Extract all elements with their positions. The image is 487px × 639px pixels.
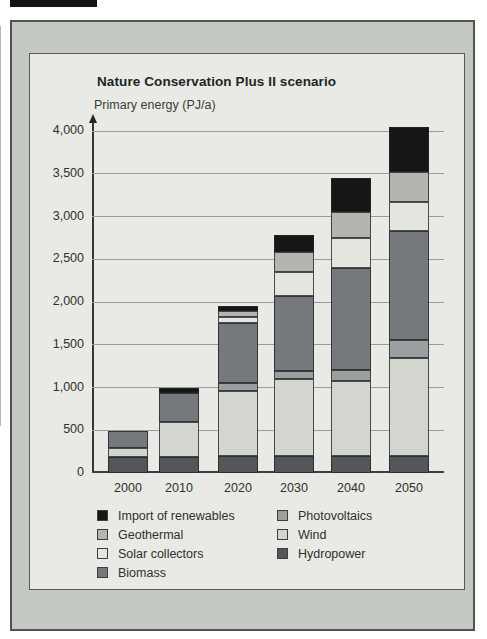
segment-2040-solar-collectors <box>331 238 371 268</box>
legend-item-biomass: Biomass <box>97 563 235 582</box>
legend-label: Geothermal <box>118 528 183 542</box>
y-axis-arrow-icon <box>89 114 97 123</box>
segment-2040-geothermal <box>331 212 371 238</box>
segment-2030-biomass <box>274 296 314 371</box>
legend-label: Solar collectors <box>118 547 203 561</box>
bar-2010 <box>159 388 199 473</box>
legend-item-hydropower: Hydropower <box>277 544 372 563</box>
segment-2020-photovoltaics <box>218 383 258 391</box>
legend-label: Wind <box>298 528 326 542</box>
segment-2050-import-of-renewables <box>389 127 429 172</box>
page-top-rule <box>10 0 97 7</box>
chart-title: Nature Conservation Plus II scenario <box>97 74 336 89</box>
legend-swatch-icon <box>97 567 108 578</box>
segment-2000-wind <box>108 448 148 457</box>
segment-2040-biomass <box>331 268 371 371</box>
segment-2020-solar-collectors <box>218 317 258 324</box>
segment-2050-geothermal <box>389 172 429 202</box>
x-tick-label-2000: 2000 <box>102 481 154 495</box>
segment-2030-geothermal <box>274 252 314 272</box>
segment-2010-biomass <box>159 393 199 422</box>
segment-2030-import-of-renewables <box>274 235 314 252</box>
y-tick-label: 3,500 <box>32 166 84 180</box>
legend-item-solar-collectors: Solar collectors <box>97 544 235 563</box>
legend-swatch-icon <box>277 510 288 521</box>
bar-2040 <box>331 178 371 473</box>
segment-2020-biomass <box>218 323 258 383</box>
segment-2030-solar-collectors <box>274 272 314 296</box>
segment-2050-photovoltaics <box>389 340 429 357</box>
bar-2020 <box>218 306 258 473</box>
segment-2030-wind <box>274 379 314 456</box>
segment-2020-hydropower <box>218 456 258 473</box>
x-tick-label-2050: 2050 <box>383 481 435 495</box>
y-tick-label: 4,000 <box>32 123 84 137</box>
segment-2030-photovoltaics <box>274 371 314 379</box>
segment-2050-biomass <box>389 231 429 340</box>
stacked-bar-chart: 05001,0001,5002,0002,5003,0003,5004,0002… <box>92 110 444 473</box>
figure-panel: Nature Conservation Plus II scenario Pri… <box>29 53 465 590</box>
segment-2010-hydropower <box>159 457 199 473</box>
legend-label: Hydropower <box>298 547 365 561</box>
y-tick-label: 1,000 <box>32 380 84 394</box>
segment-2040-wind <box>331 381 371 456</box>
y-tick-label: 2,500 <box>32 251 84 265</box>
legend-item-wind: Wind <box>277 525 372 544</box>
legend-item-import-of-renewables: Import of renewables <box>97 506 235 525</box>
y-axis-line <box>92 116 94 473</box>
legend-label: Biomass <box>118 566 166 580</box>
segment-2050-hydropower <box>389 456 429 473</box>
scan-page-edge <box>0 26 1 426</box>
segment-2010-wind <box>159 422 199 457</box>
y-tick-label: 1,500 <box>32 337 84 351</box>
x-tick-label-2040: 2040 <box>325 481 377 495</box>
legend-column-1: PhotovoltaicsWindHydropower <box>277 506 372 563</box>
bar-2000 <box>108 431 148 473</box>
segment-2040-hydropower <box>331 456 371 473</box>
y-tick-label: 3,000 <box>32 209 84 223</box>
segment-2050-solar-collectors <box>389 202 429 231</box>
figure-frame: Nature Conservation Plus II scenario Pri… <box>10 20 475 631</box>
bar-2030 <box>274 235 314 473</box>
segment-2020-import-of-renewables <box>218 306 258 310</box>
legend-item-geothermal: Geothermal <box>97 525 235 544</box>
segment-2040-photovoltaics <box>331 370 371 380</box>
x-tick-label-2030: 2030 <box>268 481 320 495</box>
legend-column-0: Import of renewablesGeothermalSolar coll… <box>97 506 235 582</box>
segment-2030-hydropower <box>274 456 314 473</box>
y-tick-label: 2,000 <box>32 294 84 308</box>
legend-swatch-icon <box>277 529 288 540</box>
x-tick-label-2010: 2010 <box>153 481 205 495</box>
legend-label: Import of renewables <box>118 509 235 523</box>
segment-2000-biomass <box>108 431 148 448</box>
legend-swatch-icon <box>97 548 108 559</box>
y-tick-label: 0 <box>32 465 84 479</box>
segment-2040-import-of-renewables <box>331 178 371 212</box>
x-tick-label-2020: 2020 <box>212 481 264 495</box>
y-tick-label: 500 <box>32 422 84 436</box>
segment-2000-hydropower <box>108 457 148 473</box>
legend-item-photovoltaics: Photovoltaics <box>277 506 372 525</box>
segment-2010-import-of-renewables <box>159 388 199 392</box>
legend-swatch-icon <box>97 529 108 540</box>
segment-2050-wind <box>389 358 429 456</box>
legend-swatch-icon <box>277 548 288 559</box>
legend-swatch-icon <box>97 510 108 521</box>
legend-label: Photovoltaics <box>298 509 372 523</box>
segment-2020-wind <box>218 391 258 456</box>
bar-2050 <box>389 127 429 473</box>
segment-2020-geothermal <box>218 311 258 317</box>
